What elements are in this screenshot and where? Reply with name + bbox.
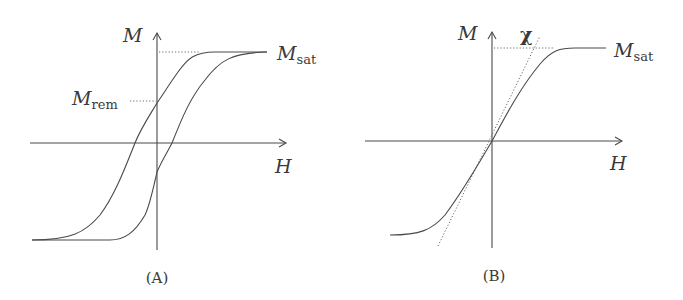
msat-label: Msat (613, 39, 654, 64)
figure: M H Msat Mrem (A) M H Msat χ (B) (0, 0, 683, 300)
hysteresis-lower-branch (32, 52, 267, 240)
m-axis-label: M (122, 24, 143, 46)
caption-b: (B) (483, 267, 506, 285)
hysteresis-upper-branch (32, 52, 267, 240)
caption-a: (A) (146, 269, 169, 287)
h-axis-label: H (274, 155, 292, 177)
msat-label: Msat (276, 42, 317, 67)
mrem-label: Mrem (71, 87, 118, 112)
m-axis-label: M (457, 22, 478, 44)
panel-a: M H Msat Mrem (A) (30, 24, 317, 287)
h-axis-label: H (609, 152, 627, 174)
chi-label: χ (520, 23, 533, 45)
panel-b: M H Msat χ (B) (365, 22, 654, 285)
